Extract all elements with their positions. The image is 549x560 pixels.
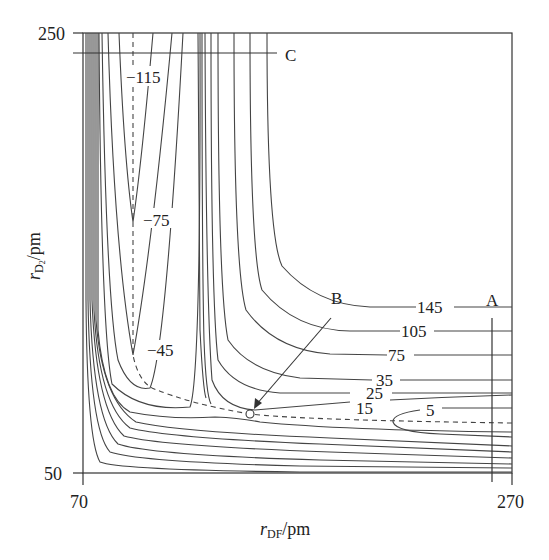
y-axis-title: rD2/pm — [24, 232, 47, 280]
contour-label-105: 105 — [401, 322, 427, 341]
arrow-to-saddle — [256, 318, 331, 405]
point-label-b: B — [331, 289, 342, 308]
y-tick-label-250: 250 — [38, 24, 65, 44]
contour-label-minus115: −115 — [126, 68, 160, 87]
contour-5-loop — [393, 408, 512, 437]
contour-label-minus45: −45 — [147, 341, 174, 360]
potential-energy-contour-figure: −115 −75 −45 145 105 75 35 25 15 5 C B A… — [0, 0, 549, 560]
contour-label-minus75: −75 — [143, 211, 170, 230]
point-label-c: C — [285, 46, 296, 65]
point-label-a: A — [486, 291, 499, 310]
contour-plot: −115 −75 −45 145 105 75 35 25 15 5 C B A… — [0, 0, 549, 560]
x-axis-title: rDF/pm — [260, 519, 310, 541]
contours-upper-right — [205, 33, 512, 410]
saddle-point-marker — [246, 410, 254, 418]
x-tick-label-70: 70 — [70, 492, 88, 512]
x-tick-label-270: 270 — [497, 492, 524, 512]
y-tick-label-50: 50 — [44, 464, 62, 484]
contour-label-15: 15 — [356, 399, 373, 418]
contours-reactant-valley — [98, 33, 512, 432]
minimum-energy-path — [133, 33, 512, 423]
contour-label-75: 75 — [388, 346, 405, 365]
contour-label-145: 145 — [417, 298, 443, 317]
contour-labels: −115 −75 −45 145 105 75 35 25 15 5 — [123, 66, 443, 420]
contour-label-5: 5 — [426, 401, 435, 420]
